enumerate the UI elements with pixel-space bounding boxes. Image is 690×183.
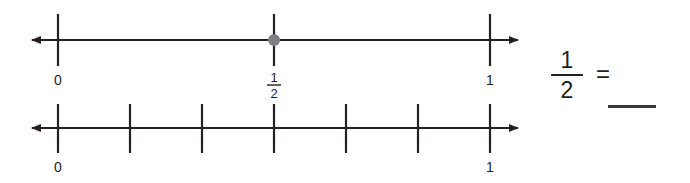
bottom-number-line: 0 1	[32, 104, 518, 175]
equation-area: 1 2 =	[542, 48, 690, 123]
bottom-label-0: 0	[54, 159, 62, 175]
top-label-one-half: 1 2	[267, 70, 281, 101]
top-label-one-half-denominator: 2	[270, 86, 277, 101]
equation-fraction-bar	[551, 74, 583, 76]
top-label-1: 1	[486, 72, 494, 88]
top-label-one-half-numerator: 1	[270, 70, 277, 85]
top-number-line: 0 1 2 1	[32, 14, 518, 101]
answer-blank-line[interactable]	[608, 105, 656, 108]
equation-left-fraction: 1 2	[550, 48, 584, 102]
top-label-0: 0	[54, 72, 62, 88]
number-lines-diagram: 0 1 2 1 0 1	[0, 0, 540, 183]
equation-fraction-denominator: 2	[550, 77, 584, 102]
equals-sign: =	[596, 62, 610, 86]
equation-fraction-numerator: 1	[550, 48, 584, 73]
plotted-point-one-half	[268, 34, 280, 46]
bottom-label-1: 1	[486, 159, 494, 175]
worksheet-canvas: 0 1 2 1 0 1	[0, 0, 690, 183]
